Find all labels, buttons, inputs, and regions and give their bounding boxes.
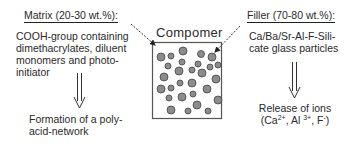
matrix-double-arrow-icon — [74, 73, 85, 108]
filler-particle — [157, 53, 165, 61]
matrix-description-line: initiator — [16, 66, 129, 78]
filler-description: Ca/Ba/Sr-Al-F-Sili- cate glass particles — [249, 30, 338, 54]
filler-particle — [195, 61, 201, 67]
matrix-description: COOH-group containing dimethacrylates, d… — [16, 30, 129, 78]
filler-particle — [168, 85, 174, 91]
filler-particle — [177, 80, 183, 86]
filler-particle — [198, 69, 206, 77]
filler-particle — [198, 51, 205, 58]
matrix-heading: Matrix (20-30 wt.%): — [24, 9, 118, 23]
filler-particle — [190, 91, 196, 97]
filler-particle — [205, 108, 211, 114]
filler-particle — [167, 106, 175, 114]
ion-list: (Ca2+, Al 3+, F-) — [258, 114, 332, 126]
filler-description-line: Ca/Ba/Sr-Al-F-Sili- — [249, 30, 338, 42]
filler-particle — [160, 73, 168, 81]
filler-particle — [179, 59, 185, 65]
filler-double-arrow-icon — [289, 62, 300, 98]
filler-particle — [212, 75, 220, 83]
compomer-title: Compomer — [156, 25, 223, 40]
filler-heading: Filler (70-80 wt.%): — [247, 9, 335, 23]
filler-particle — [214, 96, 222, 104]
filler-particle — [168, 53, 174, 59]
filler-particle — [179, 47, 187, 55]
filler-particle — [185, 108, 191, 114]
filler-particle — [207, 64, 213, 70]
matrix-pointer-arrow — [131, 24, 155, 45]
filler-description-line: cate glass particles — [249, 42, 338, 54]
matrix-result-line: Formation of a poly- — [29, 113, 122, 125]
filler-particle — [157, 85, 165, 93]
filler-particles — [157, 47, 222, 114]
matrix-result: Formation of a poly- acid-network — [29, 113, 122, 137]
filler-particle — [166, 95, 172, 101]
filler-particle — [193, 101, 201, 109]
filler-particle — [178, 93, 186, 101]
filler-particle — [189, 67, 195, 73]
matrix-description-line: COOH-group containing — [16, 30, 129, 42]
filler-result-line: Release of ions — [258, 102, 332, 114]
filler-particle — [203, 85, 211, 93]
filler-particle — [215, 62, 221, 68]
matrix-description-line: dimethacrylates, diluent — [16, 42, 129, 54]
matrix-result-line: acid-network — [29, 125, 122, 137]
filler-particle — [188, 79, 196, 87]
matrix-description-line: monomers and photo- — [16, 54, 129, 66]
filler-particle — [208, 53, 216, 61]
filler-result: Release of ions (Ca2+, Al 3+, F-) — [258, 102, 332, 126]
filler-particle — [165, 63, 171, 69]
filler-particle — [175, 67, 183, 75]
